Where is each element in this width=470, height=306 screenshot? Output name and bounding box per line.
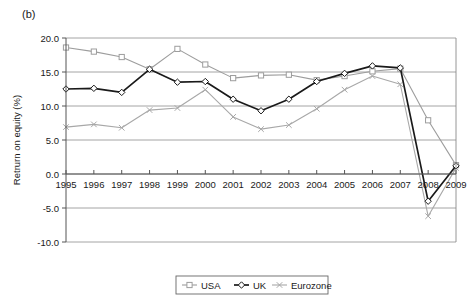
y-tick-label: 20.0 [41,33,60,44]
chart-static-layer: (b) [22,8,35,20]
x-tick-label: 2001 [223,179,244,190]
y-tick-label: 0.0 [46,169,59,180]
x-tick-label: 1999 [167,179,188,190]
data-point-usa-1997 [119,54,124,59]
x-tick-label: 2006 [362,179,383,190]
data-point-usa-2008 [426,118,431,123]
y-axis-title: Retrurn on equity (%) [11,95,22,185]
x-tick-label: 2000 [195,179,216,190]
data-point-usa-1999 [175,46,180,51]
data-point-usa-2001 [231,76,236,81]
legend-item-eurozone[interactable]: Eurozone [272,280,332,291]
data-point-usa-1996 [91,49,96,54]
x-tick-label: 2007 [390,179,411,190]
panel-label: (b) [22,8,35,20]
data-point-usa-2003 [286,72,291,77]
data-point-uk-1996 [91,85,97,91]
data-point-usa-2002 [258,73,263,78]
x-tick-label: 2008 [418,179,439,190]
y-tick-label: -5.0 [43,203,59,214]
x-tick-label: 2003 [278,179,299,190]
y-tick-label: 5.0 [46,135,59,146]
data-point-eurozone-2001 [230,114,236,120]
x-tick-label: 2005 [334,179,355,190]
x-tick-label: 2009 [445,179,466,190]
chart-figure: (b) 20.015.010.05.00.0-5.0-10.0199519961… [0,0,470,306]
y-tick-label: 10.0 [41,101,60,112]
y-tick-label: -10.0 [37,237,59,248]
x-tick-label: 2002 [250,179,271,190]
legend-label-eurozone: Eurozone [291,280,332,291]
data-point-eurozone-2004 [314,106,320,112]
legend-item-uk[interactable]: UK [234,280,267,291]
y-tick-label: 15.0 [41,67,60,78]
chart-series-layer [63,45,459,219]
data-point-eurozone-2005 [342,87,348,93]
series-line-eurozone [66,76,456,216]
data-point-eurozone-2000 [202,87,208,93]
data-point-uk-2002 [258,108,264,114]
x-tick-label: 2004 [306,179,327,190]
legend-marker-usa [187,282,192,287]
legend-label-usa: USA [201,280,221,291]
chart-legend: USAUKEurozone [176,276,332,294]
legend-item-usa[interactable]: USA [182,280,221,291]
data-point-uk-1999 [174,79,180,85]
legend-marker-uk [238,282,244,288]
legend-label-uk: UK [253,280,267,291]
x-tick-label: 1998 [139,179,160,190]
x-tick-label: 1995 [55,179,76,190]
x-tick-label: 1996 [83,179,104,190]
data-point-uk-2006 [369,63,375,69]
x-tick-label: 1997 [111,179,132,190]
data-point-usa-2000 [203,62,208,67]
